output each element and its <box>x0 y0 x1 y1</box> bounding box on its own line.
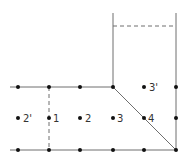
node-4 <box>142 116 146 120</box>
node-2-prime <box>16 116 20 120</box>
grid-diagram: 2' 1 2 3 4 3' <box>0 0 186 166</box>
node <box>47 85 51 89</box>
node-3 <box>111 116 115 120</box>
node <box>78 148 82 152</box>
node <box>174 85 178 89</box>
node-2 <box>78 116 82 120</box>
node-3-prime <box>142 85 146 89</box>
node <box>142 148 146 152</box>
node <box>16 85 20 89</box>
node <box>47 148 51 152</box>
node <box>111 148 115 152</box>
label-3: 3 <box>117 113 123 124</box>
node <box>174 148 178 152</box>
node <box>174 116 178 120</box>
node-1 <box>47 116 51 120</box>
label-2: 2 <box>85 113 91 124</box>
label-1: 1 <box>53 113 59 124</box>
node <box>111 85 115 89</box>
node <box>16 148 20 152</box>
label-2-prime: 2' <box>23 113 32 124</box>
label-4: 4 <box>148 113 154 124</box>
node <box>78 85 82 89</box>
label-3-prime: 3' <box>149 82 158 93</box>
